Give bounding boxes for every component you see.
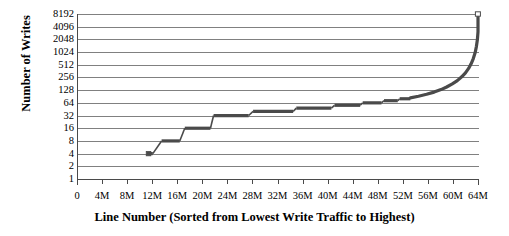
data-riser-segment <box>153 141 162 154</box>
x-tick-mark <box>403 179 404 184</box>
x-tick-mark <box>102 179 103 184</box>
y-tick-label: 8192 <box>53 9 74 19</box>
data-riser-segment <box>382 101 385 103</box>
x-tick-label: 48M <box>368 190 388 201</box>
x-tick-label: 24M <box>217 190 237 201</box>
y-tick-label: 1024 <box>53 47 74 57</box>
x-tick-label: 40M <box>318 190 338 201</box>
x-tick-mark <box>152 179 153 184</box>
y-tick-label: 256 <box>58 72 74 82</box>
x-tick-label: 8M <box>120 190 135 201</box>
y-tick-label: 4 <box>69 149 74 159</box>
x-tick-mark <box>303 179 304 184</box>
x-tick-mark <box>453 179 454 184</box>
x-tick-mark <box>252 179 253 184</box>
x-tick-label: 60M <box>443 190 463 201</box>
x-tick-mark <box>77 179 78 185</box>
data-riser-segment <box>180 128 185 141</box>
x-tick-mark <box>177 179 178 184</box>
y-tick-label: 2048 <box>53 34 74 44</box>
data-riser-segment <box>293 108 296 111</box>
x-tick-label: 0 <box>74 190 79 201</box>
top-endpoint-marker <box>475 12 480 16</box>
x-tick-label: 36M <box>293 190 313 201</box>
first-point-marker <box>146 151 151 155</box>
x-tick-mark <box>278 179 279 184</box>
x-tick-mark <box>428 179 429 184</box>
y-tick-label: 1 <box>69 174 74 184</box>
x-tick-label: 4M <box>95 190 110 201</box>
x-tick-mark <box>378 179 379 184</box>
x-axis-tick-labels: 04M8M12M16M20M24M28M32M36M40M44M48M52M56… <box>0 190 509 204</box>
x-tick-label: 12M <box>142 190 162 201</box>
x-tick-label: 32M <box>268 190 288 201</box>
data-riser-segment <box>249 111 253 115</box>
x-tick-label: 44M <box>343 190 363 201</box>
x-tick-mark <box>478 179 479 185</box>
y-tick-label: 512 <box>58 60 74 70</box>
data-tail-curve <box>410 15 478 98</box>
y-tick-label: 4096 <box>53 22 74 32</box>
x-tick-label: 16M <box>167 190 187 201</box>
y-tick-label: 8 <box>69 136 74 146</box>
y-tick-label: 2 <box>69 161 74 171</box>
x-axis-title: Line Number (Sorted from Lowest Write Tr… <box>0 210 509 225</box>
y-tick-label: 32 <box>64 111 75 121</box>
chart-container: Number of Writes 81924096204810245122561… <box>0 0 509 236</box>
data-riser-segment <box>331 105 334 108</box>
x-tick-label: 20M <box>192 190 212 201</box>
data-riser-segment <box>360 103 363 105</box>
data-riser-segment <box>398 99 400 101</box>
x-tick-label: 64M <box>468 190 488 201</box>
data-riser-segment <box>210 116 213 129</box>
x-tick-label: 28M <box>243 190 263 201</box>
y-tick-label: 128 <box>58 85 74 95</box>
x-tick-mark <box>127 179 128 184</box>
x-tick-mark <box>328 179 329 184</box>
x-tick-label: 52M <box>393 190 413 201</box>
y-axis-tick-labels: 81924096204810245122561286432168421 <box>28 8 74 186</box>
x-tick-mark <box>202 179 203 184</box>
data-series <box>77 14 478 180</box>
x-tick-mark <box>227 179 228 184</box>
y-tick-label: 64 <box>64 98 75 108</box>
x-tick-mark <box>353 179 354 184</box>
y-tick-label: 16 <box>64 123 75 133</box>
x-tick-label: 56M <box>418 190 438 201</box>
